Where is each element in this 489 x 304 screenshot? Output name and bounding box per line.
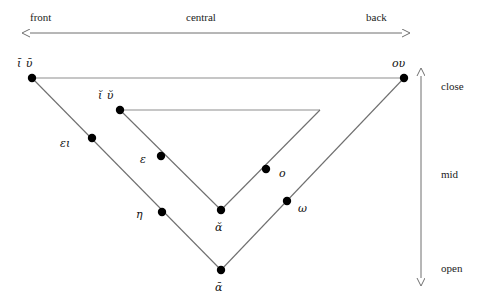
axis-label-open: open xyxy=(441,263,462,274)
vowel-dots xyxy=(28,74,408,274)
axis-label-close: close xyxy=(441,81,464,92)
outer-triangle xyxy=(32,78,404,270)
dot-i-long-u-long xyxy=(28,74,36,82)
dot-a-long xyxy=(217,266,225,274)
vowel-label-omega: ω xyxy=(298,203,307,214)
dot-omicron xyxy=(262,165,270,173)
vowel-label-epsilon: ε xyxy=(140,154,146,165)
vowel-label-a-long: ᾱ xyxy=(215,282,222,293)
vowel-label-i-long-u-long: ῑ ῡ xyxy=(17,58,33,69)
vowel-label-i-short-u-short: ῐ ῠ xyxy=(98,90,114,101)
dot-eta xyxy=(158,208,166,216)
axis-label-mid: mid xyxy=(441,169,458,180)
axis-label-central: central xyxy=(186,12,216,23)
dot-i-short-u-short xyxy=(116,106,124,114)
dot-epsilon xyxy=(157,152,165,160)
vowel-label-eta: η xyxy=(136,209,143,220)
vowel-label-omicron: ο xyxy=(279,168,286,179)
vowel-label-ei: ει xyxy=(60,138,70,149)
dot-ei xyxy=(88,134,96,142)
vowel-label-a-short: ᾰ xyxy=(215,222,222,233)
axis-label-front: front xyxy=(30,12,51,23)
diagram-canvas xyxy=(0,0,489,304)
dot-a-short xyxy=(217,206,225,214)
dot-ou xyxy=(400,74,408,82)
dot-omega xyxy=(283,197,291,205)
vowel-label-ou: ου xyxy=(392,58,405,69)
axis-label-back: back xyxy=(366,12,387,23)
vowel-chart-figure: front central back close mid open ῑ ῡ ου… xyxy=(0,0,489,304)
inner-triangle xyxy=(120,110,320,210)
